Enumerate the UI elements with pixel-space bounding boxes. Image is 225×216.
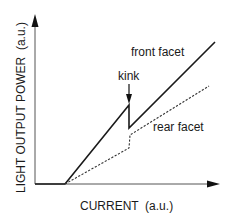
y-axis-label: LIGHT OUTPUT POWER (a.u.) xyxy=(14,22,28,193)
x-axis-arrow-icon xyxy=(207,181,220,188)
y-axis-arrow-icon xyxy=(32,14,39,27)
x-axis-label: CURRENT (a.u.) xyxy=(80,199,173,213)
rear-facet-label: rear facet xyxy=(153,120,204,134)
front-facet-line xyxy=(65,42,215,184)
rear-facet-line xyxy=(65,86,209,184)
kink-arrow-icon xyxy=(126,94,132,104)
kink-label: kink xyxy=(118,69,140,83)
front-facet-label: front facet xyxy=(131,45,185,59)
lI-curve-diagram: kink front facet rear facet CURRENT (a.u… xyxy=(0,0,225,216)
